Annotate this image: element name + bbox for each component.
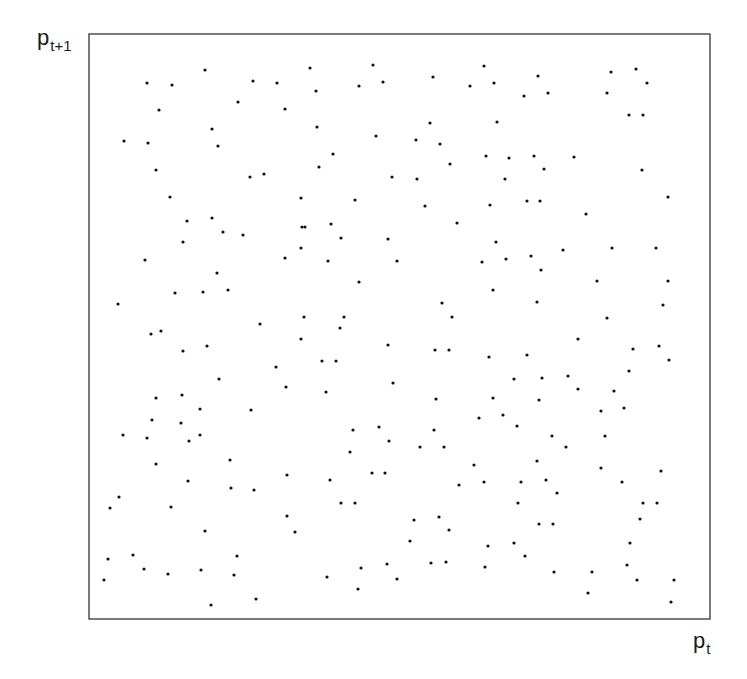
data-point — [538, 199, 541, 202]
data-point — [251, 79, 254, 82]
data-point — [447, 348, 450, 351]
data-point — [299, 196, 302, 199]
data-point — [371, 63, 374, 66]
data-point — [572, 155, 575, 158]
data-point — [555, 491, 558, 494]
data-point — [236, 100, 239, 103]
data-point — [627, 113, 630, 116]
data-point — [357, 84, 360, 87]
data-point — [221, 230, 224, 233]
data-point — [433, 348, 436, 351]
data-point — [283, 256, 286, 259]
data-point — [661, 303, 664, 306]
data-point — [299, 246, 302, 249]
data-point — [283, 107, 286, 110]
data-point — [326, 259, 329, 262]
data-point — [599, 409, 602, 412]
plot-frame — [89, 34, 710, 619]
data-point — [353, 501, 356, 504]
data-point — [595, 279, 598, 282]
data-point — [480, 260, 483, 263]
data-point — [622, 406, 625, 409]
data-point — [540, 376, 543, 379]
data-point — [351, 428, 354, 431]
data-point — [603, 434, 606, 437]
data-point — [102, 578, 105, 581]
data-point — [434, 397, 437, 400]
data-point — [491, 288, 494, 291]
data-point — [667, 358, 670, 361]
data-point — [444, 560, 447, 563]
data-point — [550, 434, 553, 437]
data-point — [179, 421, 182, 424]
data-point — [339, 501, 342, 504]
data-point — [429, 561, 432, 564]
data-point — [145, 436, 148, 439]
data-point — [142, 567, 145, 570]
data-point — [561, 248, 564, 251]
data-point — [610, 246, 613, 249]
data-point — [108, 506, 111, 509]
y-axis-label-subscript: t+1 — [50, 37, 71, 54]
data-point — [359, 566, 362, 569]
x-axis-label-subscript: t — [706, 640, 710, 657]
data-point — [387, 439, 390, 442]
data-point — [455, 221, 458, 224]
data-point — [390, 175, 393, 178]
data-point — [641, 501, 644, 504]
data-point — [669, 600, 672, 603]
data-point — [537, 398, 540, 401]
data-point — [215, 271, 218, 274]
data-point — [157, 108, 160, 111]
data-point — [374, 134, 377, 137]
data-point — [634, 67, 637, 70]
data-point — [168, 195, 171, 198]
y-axis-label: pt+1 — [37, 27, 72, 49]
data-point — [181, 349, 184, 352]
data-point — [303, 225, 306, 228]
data-point — [106, 557, 109, 560]
data-point — [457, 483, 460, 486]
data-point — [254, 597, 257, 600]
data-point — [519, 480, 522, 483]
data-point — [262, 172, 265, 175]
data-point — [348, 450, 351, 453]
data-point — [484, 154, 487, 157]
data-point — [504, 257, 507, 260]
data-point — [342, 315, 345, 318]
data-point — [544, 478, 547, 481]
data-point — [205, 344, 208, 347]
data-point — [666, 195, 669, 198]
data-point — [154, 462, 157, 465]
data-point — [173, 291, 176, 294]
data-point — [154, 396, 157, 399]
data-point — [586, 591, 589, 594]
y-axis-label-main: p — [37, 25, 49, 50]
data-point — [488, 203, 491, 206]
data-point — [442, 445, 445, 448]
data-point — [440, 301, 443, 304]
data-point — [143, 258, 146, 261]
data-point — [209, 603, 212, 606]
data-point — [482, 64, 485, 67]
data-point — [428, 121, 431, 124]
data-point — [154, 168, 157, 171]
data-point — [258, 322, 261, 325]
data-point — [116, 302, 119, 305]
data-point — [431, 75, 434, 78]
x-axis-label: pt — [693, 630, 710, 652]
data-point — [414, 138, 417, 141]
data-point — [418, 445, 421, 448]
data-point — [370, 471, 373, 474]
data-point — [217, 377, 220, 380]
data-point — [584, 212, 587, 215]
data-point — [170, 83, 173, 86]
data-point — [635, 578, 638, 581]
data-point — [482, 480, 485, 483]
data-point — [317, 165, 320, 168]
data-point — [383, 471, 386, 474]
data-point — [185, 219, 188, 222]
data-point — [203, 68, 206, 71]
data-point — [501, 413, 504, 416]
data-point — [145, 81, 148, 84]
